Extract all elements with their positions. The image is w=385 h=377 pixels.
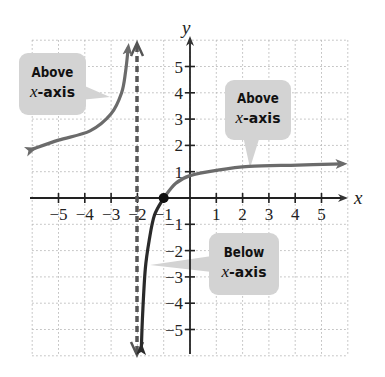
callout-rest: -axis [229,264,266,280]
svg-text:2: 2 [238,205,247,224]
y-axis-label: y [180,17,191,38]
svg-text:−5: −5 [165,321,183,340]
svg-text:−4: −4 [76,205,95,224]
callout-below: Below x-axis [209,233,279,295]
svg-text:−1: −1 [165,215,183,234]
svg-text:3: 3 [175,110,184,129]
callout-rest: -axis [38,84,75,100]
svg-text:5: 5 [175,58,184,77]
x-axis-label: x [353,187,363,208]
callout-var: x [30,82,38,101]
callout-above-left: Above x-axis [19,53,86,115]
svg-text:−5: −5 [49,205,67,224]
svg-text:−3: −3 [102,205,120,224]
svg-text:−4: −4 [165,294,184,313]
svg-text:4: 4 [175,84,184,103]
svg-text:3: 3 [265,205,274,224]
callout-above-right: Above x-axis [225,80,291,140]
callout-title: Above [24,62,81,82]
x-intercept-point [159,193,169,203]
callout-var: x [236,108,244,127]
svg-text:2: 2 [175,136,184,155]
svg-text:5: 5 [317,205,326,224]
svg-text:1: 1 [212,205,221,224]
callout-var: x [222,262,230,281]
callout-rest: -axis [243,110,280,126]
svg-text:4: 4 [291,205,300,224]
svg-text:−3: −3 [165,268,183,287]
svg-text:−2: −2 [165,242,183,261]
callout-title: Below [214,242,274,262]
callout-title: Above [230,88,286,108]
